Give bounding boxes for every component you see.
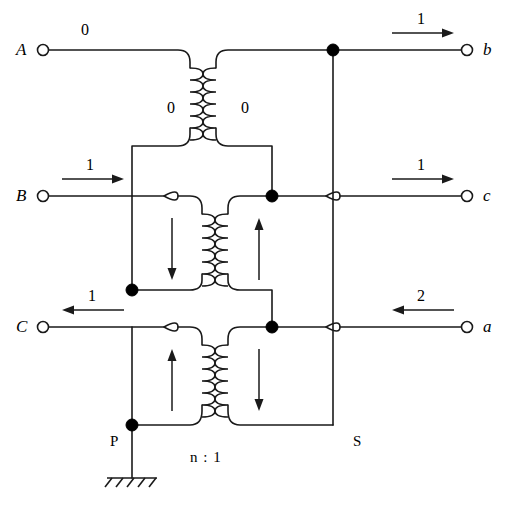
current-value-b: 1	[417, 11, 425, 27]
coil-arrow-middle-primary-down	[168, 218, 177, 280]
terminal-ring-B[interactable]	[38, 191, 49, 202]
terminal-ring-b[interactable]	[462, 45, 473, 56]
terminal-label-C: C	[16, 318, 27, 335]
current-arrow-B	[62, 175, 124, 184]
current-value-c: 1	[417, 157, 425, 173]
coil-arrow-bottom-secondary-down	[255, 349, 264, 411]
wire-c-lead	[326, 192, 462, 200]
terminal-label-b: b	[483, 41, 492, 58]
junction-dot-P	[126, 419, 138, 431]
circuit-schematic	[0, 0, 510, 511]
top-transformer-primary-coil	[190, 68, 203, 140]
junction-dot-top-bus	[327, 44, 339, 56]
side-label-secondary: S	[353, 434, 361, 449]
middle-transformer-secondary-coil	[215, 214, 228, 286]
terminal-label-c: c	[483, 187, 491, 204]
wire-a-lead	[326, 323, 462, 331]
wire-A-to-top-primary	[48, 50, 190, 68]
wire-top-secondary-bottom	[216, 128, 272, 196]
turns-ratio-label: n : 1	[190, 450, 222, 465]
current-value-C: 1	[88, 288, 96, 304]
current-value-a: 2	[417, 288, 425, 304]
terminal-label-B: B	[16, 187, 26, 204]
coil-label-top-secondary: 0	[241, 100, 249, 116]
current-arrow-b	[392, 29, 454, 38]
terminal-label-a: a	[483, 318, 492, 335]
current-value-B: 1	[86, 157, 94, 173]
wire-bottom-secondary-bottom	[228, 405, 333, 425]
wire-top-secondary-top	[216, 50, 462, 68]
side-label-primary: P	[110, 434, 118, 449]
terminal-ring-a[interactable]	[462, 322, 473, 333]
terminal-ring-A[interactable]	[38, 45, 49, 56]
current-value-A: 0	[81, 22, 89, 38]
terminal-label-A: A	[16, 41, 26, 58]
coil-label-top-primary: 0	[167, 100, 175, 116]
wire-mid-secondary-bottom	[228, 274, 272, 327]
junction-dot-mid-secondary	[266, 190, 278, 202]
current-arrow-a	[392, 306, 454, 315]
top-transformer-secondary-coil	[203, 68, 216, 140]
bottom-transformer-primary-coil	[202, 345, 215, 417]
transformer-circuit-diagram: A B C b c a 0 1 1 1 1 2 0 0 P S n : 1	[0, 0, 510, 511]
wire-top-primary-bottom	[132, 128, 190, 196]
wire-C-lead	[48, 323, 202, 345]
coil-arrow-bottom-primary-up	[168, 349, 177, 411]
wire-B-lead	[48, 192, 202, 214]
bottom-transformer-secondary-coil	[215, 345, 228, 417]
coil-arrow-middle-secondary-up	[255, 218, 264, 280]
current-arrow-C	[62, 306, 124, 315]
wire-mid-primary-bottom	[132, 274, 202, 290]
junction-dot-mid-primary	[126, 284, 138, 296]
current-arrow-c	[392, 175, 454, 184]
wire-bottom-primary-bottom	[132, 405, 202, 425]
middle-transformer-primary-coil	[202, 214, 215, 286]
terminal-ring-c[interactable]	[462, 191, 473, 202]
terminal-ring-C[interactable]	[38, 322, 49, 333]
junction-dot-bottom-secondary	[266, 321, 278, 333]
